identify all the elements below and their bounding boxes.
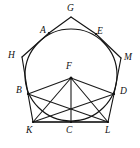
segment-ge [71,17,96,34]
point-label-c: C [66,126,72,136]
point-label-b: B [16,86,22,96]
point-label-e: E [97,27,103,37]
center-fan-edges [28,78,114,122]
segment-ah [22,33,49,57]
segment-em [96,34,121,58]
point-label-l: L [105,126,110,136]
point-label-h: H [8,51,15,61]
vertex-b [27,93,29,95]
vertex-l [107,121,109,123]
vertex-f [70,77,73,80]
point-label-a: A [40,26,46,36]
vertex-a [48,32,50,34]
point-label-m: M [124,53,132,63]
geometry-figure: G A E H M F B D K C L [0,0,140,148]
point-label-f: F [66,62,72,72]
segment-bk [28,94,33,122]
vertex-c [70,121,72,123]
point-label-g: G [67,4,74,14]
vertex-k [32,121,34,123]
point-label-d: D [120,87,127,97]
vertex-d [113,93,115,95]
point-label-k: K [26,126,32,136]
